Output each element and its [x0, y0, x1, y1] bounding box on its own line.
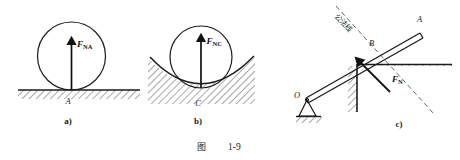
force-arrow-c: [360, 62, 390, 92]
contact-point-label-b-c: B: [369, 38, 374, 48]
bar-end-label-a: A: [416, 14, 423, 24]
ground-hatch-a: [18, 90, 140, 99]
contact-point-label-a: A: [64, 96, 71, 106]
concave-hatch-b: [146, 54, 258, 106]
caption-cn-label: 图: [197, 142, 206, 152]
panel-tag-a: a): [64, 116, 72, 126]
contact-point-label-b: C: [195, 98, 201, 108]
panel-tag-c: c): [396, 119, 403, 129]
panel-tag-b: b): [194, 116, 202, 126]
figure-caption: 图 1-9: [197, 142, 241, 152]
force-label-a: FNA: [76, 39, 93, 50]
force-label-b: FNC: [206, 36, 223, 47]
figure-1-9: FNA A a) FNC C b) 公法线: [0, 0, 460, 160]
panel-c: 公法线 FN A: [294, 6, 453, 129]
figure-canvas: FNA A a) FNC C b) 公法线: [0, 0, 460, 160]
force-label-c: FN: [391, 74, 403, 85]
panel-b: FNC C b): [146, 26, 258, 126]
panel-a: FNA A a): [18, 22, 140, 126]
caption-number: 1-9: [228, 142, 241, 152]
bar-oa: [306, 33, 423, 103]
pivot-label-o: O: [294, 90, 300, 100]
